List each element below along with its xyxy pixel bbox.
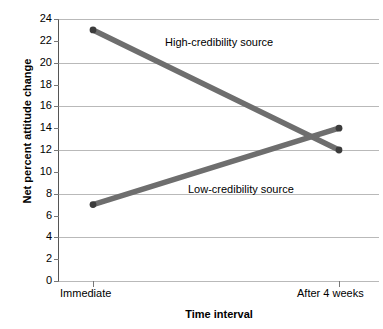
y-tick-label-22: 22 [22,35,52,46]
y-axis-tick-labels: 024681012141618202224 [22,0,52,329]
y-tick-label-18: 18 [22,79,52,90]
gridline-0 [59,281,379,282]
y-tick-label-4: 4 [22,231,52,242]
data-point-s0-p1 [336,147,343,154]
y-tick-mark-0 [54,281,59,282]
series-label-low-credibility: Low-credibility source [188,183,294,195]
y-tick-label-20: 20 [22,57,52,68]
series-label-high-credibility: High-credibility source [165,36,273,48]
y-tick-label-12: 12 [22,144,52,155]
data-point-s1-p1 [336,125,343,132]
plot-area: High-credibility source Low-credibility … [58,19,379,282]
y-tick-label-10: 10 [22,166,52,177]
y-tick-label-16: 16 [22,100,52,111]
y-tick-label-0: 0 [22,275,52,286]
y-tick-label-8: 8 [22,188,52,199]
chart-container: Net percent attitude change 024681012141… [0,0,383,329]
y-tick-label-2: 2 [22,253,52,264]
data-point-s1-p0 [90,201,97,208]
y-tick-label-14: 14 [22,122,52,133]
data-point-s0-p0 [90,27,97,34]
x-tick-label-after-4-weeks: After 4 weeks [297,287,364,299]
y-tick-label-6: 6 [22,210,52,221]
y-tick-label-24: 24 [22,13,52,24]
x-tick-label-immediate: Immediate [60,287,111,299]
x-axis-title: Time interval [55,308,383,320]
series-lines-svg [59,19,379,281]
